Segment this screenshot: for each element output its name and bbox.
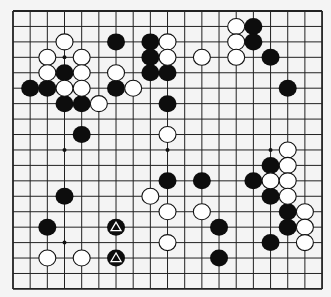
white-stone[interactable] bbox=[56, 34, 73, 50]
white-stone[interactable] bbox=[90, 96, 107, 112]
star-point bbox=[63, 55, 67, 59]
white-stone[interactable] bbox=[262, 173, 279, 189]
white-stone[interactable] bbox=[73, 65, 90, 81]
star-point bbox=[63, 241, 67, 245]
white-stone[interactable] bbox=[108, 65, 125, 81]
black-stone[interactable] bbox=[141, 64, 159, 81]
star-point bbox=[269, 148, 273, 152]
white-stone[interactable] bbox=[159, 204, 176, 220]
white-stone[interactable] bbox=[228, 49, 245, 65]
white-stone[interactable] bbox=[159, 235, 176, 251]
white-stone[interactable] bbox=[279, 142, 296, 158]
black-stone[interactable] bbox=[279, 80, 297, 97]
black-stone[interactable] bbox=[159, 172, 177, 189]
black-stone[interactable] bbox=[107, 33, 125, 50]
star-point bbox=[63, 148, 67, 152]
black-stone[interactable] bbox=[159, 95, 177, 112]
black-stone[interactable] bbox=[73, 126, 91, 143]
white-stone[interactable] bbox=[159, 34, 176, 50]
black-stone[interactable] bbox=[279, 219, 297, 236]
white-stone[interactable] bbox=[296, 219, 313, 235]
black-stone[interactable] bbox=[262, 49, 280, 66]
black-stone[interactable] bbox=[279, 203, 297, 220]
white-stone[interactable] bbox=[296, 204, 313, 220]
white-stone[interactable] bbox=[142, 188, 159, 204]
black-stone[interactable] bbox=[56, 95, 74, 112]
black-stone[interactable] bbox=[56, 188, 74, 205]
black-stone[interactable] bbox=[262, 188, 280, 205]
white-stone[interactable] bbox=[228, 18, 245, 34]
white-stone[interactable] bbox=[73, 80, 90, 96]
white-stone[interactable] bbox=[279, 188, 296, 204]
black-stone[interactable] bbox=[159, 64, 177, 81]
black-stone[interactable] bbox=[141, 49, 159, 66]
star-point bbox=[166, 148, 170, 152]
black-stone[interactable] bbox=[244, 33, 262, 50]
black-stone[interactable] bbox=[193, 172, 211, 189]
white-stone[interactable] bbox=[39, 250, 56, 266]
black-stone[interactable] bbox=[210, 219, 228, 236]
black-stone[interactable] bbox=[244, 172, 262, 189]
white-stone[interactable] bbox=[279, 173, 296, 189]
white-stone[interactable] bbox=[56, 80, 73, 96]
white-stone[interactable] bbox=[193, 49, 210, 65]
white-stone[interactable] bbox=[228, 34, 245, 50]
white-stone[interactable] bbox=[279, 157, 296, 173]
black-stone[interactable] bbox=[56, 64, 74, 81]
black-stone[interactable] bbox=[73, 95, 91, 112]
white-stone[interactable] bbox=[159, 49, 176, 65]
go-board[interactable] bbox=[0, 0, 331, 297]
black-stone[interactable] bbox=[38, 80, 56, 97]
white-stone[interactable] bbox=[73, 49, 90, 65]
white-stone[interactable] bbox=[193, 204, 210, 220]
white-stone[interactable] bbox=[159, 127, 176, 143]
black-stone[interactable] bbox=[262, 157, 280, 174]
black-stone[interactable] bbox=[38, 219, 56, 236]
white-stone[interactable] bbox=[125, 80, 142, 96]
black-stone[interactable] bbox=[21, 80, 39, 97]
black-stone[interactable] bbox=[262, 234, 280, 251]
white-stone[interactable] bbox=[39, 49, 56, 65]
white-stone[interactable] bbox=[39, 65, 56, 81]
black-stone[interactable] bbox=[107, 80, 125, 97]
black-stone[interactable] bbox=[141, 33, 159, 50]
black-stone[interactable] bbox=[210, 250, 228, 267]
white-stone[interactable] bbox=[296, 235, 313, 251]
white-stone[interactable] bbox=[73, 250, 90, 266]
black-stone[interactable] bbox=[244, 18, 262, 35]
